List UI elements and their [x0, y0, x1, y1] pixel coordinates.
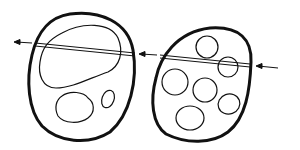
- vacuole-4: [193, 78, 217, 102]
- large-vacuole: [40, 25, 121, 88]
- arrow-middle: [139, 52, 157, 57]
- vacuole-6: [176, 106, 204, 130]
- vacuole-2: [218, 57, 238, 77]
- cell-diagram: [0, 0, 300, 150]
- vacuole-5: [215, 91, 243, 117]
- vacuole-1: [196, 36, 218, 58]
- arrow-left: [14, 40, 32, 45]
- vacuole-3: [162, 69, 188, 95]
- small-inclusion-2: [99, 88, 116, 109]
- cell-left: [29, 13, 135, 140]
- arrow-right: [256, 64, 278, 69]
- small-inclusion-1: [56, 92, 93, 122]
- cell-right: [153, 28, 251, 141]
